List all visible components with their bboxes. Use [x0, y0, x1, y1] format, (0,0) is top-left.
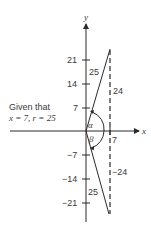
given-line-1: Given that	[9, 102, 56, 113]
lower-hypotenuse-label: 25	[88, 187, 98, 197]
alpha-arc	[92, 112, 104, 131]
y-tick-7: 7	[73, 103, 78, 113]
given-note: Given that x = 7, r = 25	[9, 102, 56, 124]
upper-hypotenuse-label: 25	[89, 67, 99, 77]
y-tick-neg7: −7	[67, 150, 77, 160]
given-line-2: x = 7, r = 25	[9, 113, 56, 124]
lower-vertical-label: −24	[112, 167, 127, 177]
y-axis-label: y	[83, 12, 88, 22]
upper-terminal-side	[86, 49, 110, 131]
upper-vertical-label: 24	[113, 86, 123, 96]
x-tick-label: 7	[112, 135, 117, 145]
beta-label: β	[88, 134, 94, 144]
x-axis-label: x	[141, 126, 146, 136]
y-tick-neg14: −14	[62, 174, 77, 184]
y-tick-21: 21	[67, 55, 77, 65]
alpha-arrow-icon	[90, 110, 94, 114]
alpha-label: α	[88, 120, 93, 130]
y-tick-neg21: −21	[62, 198, 77, 208]
y-tick-14: 14	[67, 79, 77, 89]
